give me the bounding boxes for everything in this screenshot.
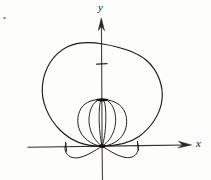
- inner-petal-left: [89, 100, 106, 146]
- x-axis-label: x: [196, 138, 201, 149]
- origin-node: [99, 144, 106, 148]
- axis-group: [28, 18, 192, 180]
- paper-speck: [3, 17, 6, 19]
- y-axis-label: y: [98, 2, 103, 13]
- inner-node: [96, 98, 108, 101]
- figure-canvas: y x: [0, 0, 211, 180]
- y-tick-upper: [97, 64, 107, 65]
- polar-curve-figure: [0, 0, 211, 180]
